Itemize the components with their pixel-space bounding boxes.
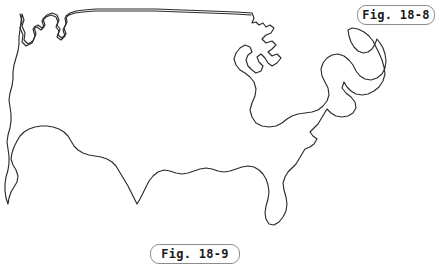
us-outline-map — [0, 0, 439, 265]
figure-label-top-right: Fig. 18-8 — [357, 5, 435, 25]
figure-page: Fig. 18-8 Fig. 18-9 — [0, 0, 439, 265]
figure-label-bottom-center: Fig. 18-9 — [150, 244, 240, 264]
